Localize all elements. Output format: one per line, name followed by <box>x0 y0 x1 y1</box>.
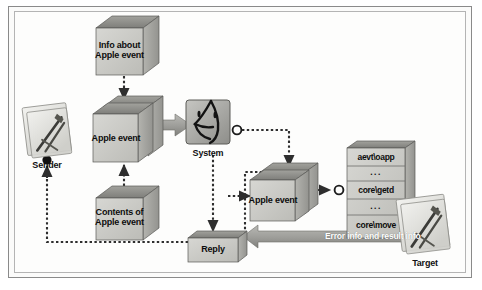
registry-row-4: core\move <box>347 220 405 230</box>
sender-icon <box>22 103 72 159</box>
connector-system-to-appleevent-right <box>233 126 289 166</box>
arrow-label-error-and-result-info: Error info and result info <box>325 231 421 241</box>
registry-row-0: aevt\oapp <box>347 152 405 162</box>
registry-row-3: ... <box>347 201 405 211</box>
apple-event-flow-diagram: Info about Apple event Apple event Conte… <box>0 0 482 290</box>
registry-row-2: core\getd <box>347 185 405 195</box>
cube-apple-event-left <box>93 96 163 162</box>
actor-label-system: System <box>183 148 233 158</box>
actor-label-sender: Sender <box>22 160 72 170</box>
diagram-vector-layer <box>0 0 482 290</box>
box-label-reply: Reply <box>188 244 238 254</box>
cube-label-apple-event-left: Apple event <box>91 133 141 143</box>
cube-label-contents-of-apple-event: Contents of Apple event <box>93 207 146 227</box>
mac-finder-face-icon <box>186 100 230 144</box>
cube-label-info-about-apple-event: Info about Apple event <box>93 40 146 60</box>
actor-label-target: Target <box>400 258 450 268</box>
registry-row-1: ... <box>347 167 405 177</box>
cube-label-apple-event-right: Apple event <box>248 195 298 205</box>
